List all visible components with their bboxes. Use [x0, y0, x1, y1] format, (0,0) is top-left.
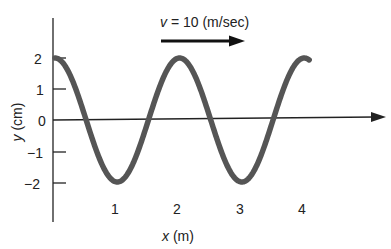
x-axis-arrow-icon [371, 112, 386, 122]
svg-text:3: 3 [236, 201, 244, 217]
svg-text:2: 2 [34, 51, 42, 67]
velocity-arrow-icon [229, 36, 245, 47]
x-tick-labels: 1 2 3 4 [111, 201, 306, 217]
svg-text:0: 0 [38, 113, 46, 129]
x-axis-label: x (m) [161, 228, 194, 244]
svg-text:1: 1 [111, 201, 119, 217]
x-axis [53, 117, 375, 120]
svg-text:2: 2 [173, 201, 181, 217]
wave-diagram: 2 1 0 −1 −2 y (cm) 1 2 3 4 x (m) v = 10 … [0, 0, 391, 249]
y-tick-labels: 2 1 0 −1 −2 [24, 51, 46, 192]
y-axis-label: y (cm) [9, 103, 25, 143]
svg-text:−2: −2 [24, 176, 40, 192]
svg-text:1: 1 [36, 82, 44, 98]
velocity-label: v = 10 (m/sec) [160, 14, 249, 30]
svg-text:−1: −1 [27, 145, 43, 161]
svg-text:4: 4 [298, 201, 306, 217]
